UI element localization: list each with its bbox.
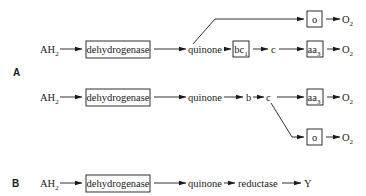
dehydrogenase-label: dehydrogenase xyxy=(87,92,150,103)
donor-ah2: AH2 xyxy=(40,92,59,106)
cytochrome-c-label: c xyxy=(266,92,271,103)
acceptor-y-label: Y xyxy=(304,178,312,189)
quinone-label: quinone xyxy=(188,44,222,55)
donor-ah2: AH2 xyxy=(40,178,59,192)
pathway-a1: AH2 dehydrogenase quinone bc1 c aa3 O2 o… xyxy=(40,11,354,58)
oxygen-label: O2 xyxy=(342,92,354,106)
panel-label-a: A xyxy=(13,67,20,78)
dehydrogenase-label: dehydrogenase xyxy=(87,44,150,55)
reductase-label: reductase xyxy=(238,178,278,189)
branch-arrow-icon xyxy=(271,103,304,137)
oxygen-label: O2 xyxy=(342,44,354,58)
oxidase-o-label: o xyxy=(312,132,317,143)
panel-label-b: B xyxy=(12,178,19,189)
oxygen-label: O2 xyxy=(342,132,354,146)
quinone-label: quinone xyxy=(188,92,222,103)
electron-transport-diagram: A AH2 dehydrogenase quinone bc1 c aa3 O2… xyxy=(0,0,366,196)
donor-ah2: AH2 xyxy=(40,44,59,58)
pathway-a2: AH2 dehydrogenase quinone b c aa3 O2 o O… xyxy=(40,89,354,146)
cytochrome-c-label: c xyxy=(271,44,276,55)
oxygen-label: O2 xyxy=(342,14,354,28)
pathway-b: AH2 dehydrogenase quinone reductase Y xyxy=(40,175,312,192)
branch-arrow-icon xyxy=(193,19,304,44)
cytochrome-b-label: b xyxy=(246,92,251,103)
quinone-label: quinone xyxy=(188,178,222,189)
oxidase-o-label: o xyxy=(312,14,317,25)
dehydrogenase-label: dehydrogenase xyxy=(87,178,150,189)
